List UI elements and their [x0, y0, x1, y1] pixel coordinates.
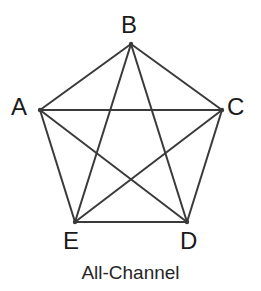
graph-edge-b-c [131, 44, 222, 110]
graph-edge-a-d [40, 110, 187, 222]
node-layer [38, 42, 224, 224]
vertex-label-b: B [121, 13, 137, 37]
edge-layer [40, 44, 222, 222]
graph-edge-a-b [40, 44, 131, 110]
diagram-caption: All-Channel [0, 262, 261, 284]
graph-edge-a-e [40, 110, 75, 222]
graph-edge-b-e [75, 44, 131, 222]
graph-node-a [38, 108, 42, 112]
diagram-page: ABCDE All-Channel [0, 0, 261, 291]
network-graph [0, 0, 261, 291]
vertex-label-c: C [227, 95, 244, 119]
graph-node-c [220, 108, 224, 112]
graph-edge-b-d [131, 44, 187, 222]
vertex-label-e: E [63, 229, 79, 253]
graph-node-e [73, 220, 77, 224]
vertex-label-d: D [180, 229, 197, 253]
graph-node-b [129, 42, 133, 46]
graph-edge-c-d [187, 110, 222, 222]
vertex-label-a: A [11, 95, 27, 119]
graph-edge-c-e [75, 110, 222, 222]
graph-node-d [185, 220, 189, 224]
